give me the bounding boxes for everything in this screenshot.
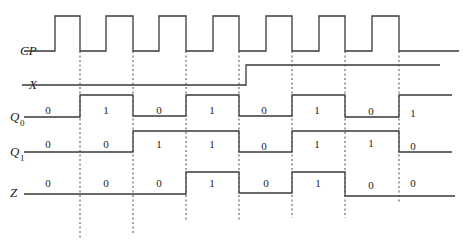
q0-value: 0 <box>156 104 162 116</box>
label-q1-subscript: 1 <box>20 153 25 163</box>
q1-value: 0 <box>261 140 267 152</box>
z-value: 0 <box>263 177 269 189</box>
q0-waveform <box>24 95 452 117</box>
q1-value: 1 <box>314 138 320 150</box>
z-value: 0 <box>410 177 416 189</box>
q0-value: 1 <box>410 107 416 119</box>
label-z: Z <box>10 185 18 200</box>
q1-value: 1 <box>368 137 374 149</box>
cp-waveform <box>24 16 459 51</box>
q1-value: 0 <box>410 140 416 152</box>
q1-value: 0 <box>45 138 51 150</box>
z-value: 1 <box>209 177 215 189</box>
label-q1: Q <box>10 144 20 159</box>
q1-value: 0 <box>103 138 109 150</box>
z-value: 1 <box>315 177 321 189</box>
z-value: 0 <box>103 177 109 189</box>
label-q0-subscript: 0 <box>20 118 25 128</box>
q0-value: 0 <box>261 104 267 116</box>
z-values: 0 0 0 1 0 1 0 0 <box>45 177 416 191</box>
q0-value: 0 <box>45 104 51 116</box>
q0-value: 0 <box>368 105 374 117</box>
q0-value: 1 <box>103 104 109 116</box>
z-value: 0 <box>368 179 374 191</box>
z-value: 0 <box>45 177 51 189</box>
clock-edge-markers <box>80 51 399 240</box>
q0-value: 1 <box>209 104 215 116</box>
timing-diagram: CP X Q 0 Q 1 Z 0 1 0 1 0 1 0 1 0 0 1 1 <box>0 0 464 247</box>
label-q0: Q <box>10 109 20 124</box>
q1-value: 1 <box>209 138 215 150</box>
x-waveform <box>22 65 440 85</box>
z-value: 0 <box>156 177 162 189</box>
q1-value: 1 <box>156 138 162 150</box>
q1-waveform <box>24 131 452 152</box>
q1-values: 0 0 1 1 0 1 1 0 <box>45 137 416 152</box>
q0-value: 1 <box>314 104 320 116</box>
